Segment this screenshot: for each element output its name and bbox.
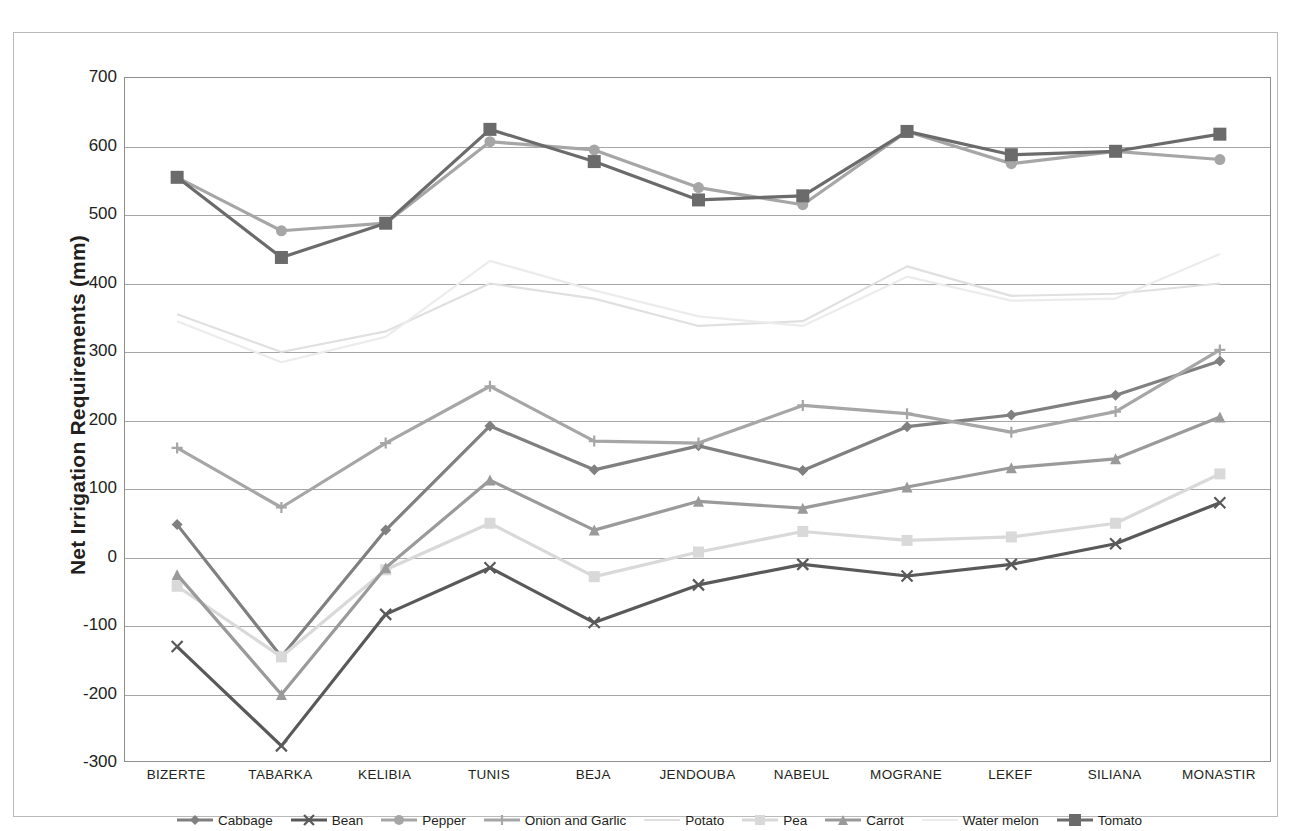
y-axis-tick-label: 700 bbox=[0, 67, 117, 87]
y-axis-tick-label: 200 bbox=[0, 410, 117, 430]
series-pepper bbox=[172, 126, 1226, 236]
y-axis-tick-label: 300 bbox=[0, 341, 117, 361]
data-point-marker bbox=[275, 251, 288, 264]
y-axis-tick-label: 0 bbox=[0, 547, 117, 567]
x-axis-tick-label: TUNIS bbox=[468, 767, 510, 782]
data-point-marker bbox=[589, 571, 600, 582]
x-axis-tick-label: JENDOUBA bbox=[660, 767, 736, 782]
data-point-marker bbox=[1006, 531, 1017, 542]
legend-swatch bbox=[484, 813, 520, 827]
data-point-marker bbox=[379, 217, 392, 230]
series-line bbox=[177, 350, 1220, 508]
legend-item-tomato[interactable]: Tomato bbox=[1057, 813, 1142, 828]
legend-swatch bbox=[742, 813, 778, 827]
data-point-marker bbox=[276, 225, 287, 236]
data-point-marker bbox=[1006, 410, 1017, 421]
legend-label: Potato bbox=[683, 813, 724, 828]
data-point-marker bbox=[172, 581, 183, 592]
series-onion-and-garlic bbox=[172, 344, 1226, 513]
data-point-marker bbox=[276, 651, 287, 662]
legend-item-bean[interactable]: Bean bbox=[291, 813, 364, 828]
legend-item-carrot[interactable]: Carrot bbox=[825, 813, 904, 828]
data-point-marker bbox=[902, 421, 913, 432]
legend-label: Pea bbox=[781, 813, 807, 828]
data-point-marker bbox=[693, 182, 704, 193]
series-line bbox=[177, 266, 1220, 352]
series-water-melon bbox=[177, 254, 1220, 362]
data-point-marker bbox=[902, 408, 913, 419]
data-point-marker bbox=[484, 136, 495, 147]
data-point-marker bbox=[902, 535, 913, 546]
data-point-marker bbox=[172, 569, 183, 580]
x-axis-tick-label: BEJA bbox=[576, 767, 611, 782]
legend-item-potato[interactable]: Potato bbox=[644, 813, 724, 828]
legend-swatch bbox=[825, 813, 861, 827]
y-axis-tick-label: 500 bbox=[0, 204, 117, 224]
legend-item-pepper[interactable]: Pepper bbox=[381, 813, 466, 828]
data-point-marker bbox=[483, 123, 496, 136]
x-axis-tick-label: MONASTIR bbox=[1182, 767, 1256, 782]
legend-item-onion-and-garlic[interactable]: Onion and Garlic bbox=[484, 813, 626, 828]
series-bean bbox=[172, 497, 1226, 751]
data-point-marker bbox=[589, 436, 600, 447]
data-point-marker bbox=[1214, 154, 1225, 165]
data-point-marker bbox=[796, 189, 809, 202]
legend-swatch bbox=[922, 813, 958, 827]
data-point-marker bbox=[797, 400, 808, 411]
data-point-marker bbox=[755, 815, 765, 825]
series-layer bbox=[125, 78, 1272, 763]
legend-label: Onion and Garlic bbox=[523, 813, 626, 828]
legend-label: Pepper bbox=[420, 813, 466, 828]
legend-swatch bbox=[381, 813, 417, 827]
legend-label: Tomato bbox=[1096, 813, 1142, 828]
data-point-marker bbox=[1069, 814, 1081, 826]
series-line bbox=[177, 131, 1220, 230]
legend-label: Water melon bbox=[961, 813, 1039, 828]
plot-area bbox=[124, 77, 1271, 762]
x-axis-tick-label: SILIANA bbox=[1088, 767, 1142, 782]
data-point-marker bbox=[1213, 128, 1226, 141]
data-point-marker bbox=[1109, 145, 1122, 158]
legend-label: Carrot bbox=[864, 813, 904, 828]
legend-swatch bbox=[644, 813, 680, 827]
data-point-marker bbox=[484, 518, 495, 529]
data-point-marker bbox=[797, 526, 808, 537]
data-point-marker bbox=[1110, 518, 1121, 529]
legend-swatch bbox=[177, 813, 213, 827]
x-axis-tick-label: KELIBIA bbox=[358, 767, 411, 782]
data-point-marker bbox=[484, 475, 495, 486]
y-axis-tick-label: -300 bbox=[0, 752, 117, 772]
data-point-marker bbox=[692, 193, 705, 206]
data-point-marker bbox=[901, 125, 914, 138]
data-point-marker bbox=[497, 815, 507, 825]
data-point-marker bbox=[1005, 148, 1018, 161]
legend-label: Cabbage bbox=[216, 813, 273, 828]
data-point-marker bbox=[589, 144, 600, 155]
data-point-marker bbox=[276, 740, 287, 751]
legend-item-cabbage[interactable]: Cabbage bbox=[177, 813, 273, 828]
data-point-marker bbox=[1006, 427, 1017, 438]
series-potato bbox=[177, 266, 1220, 352]
chart-figure: Net Irrigation Requirements (mm) 7006005… bbox=[0, 0, 1293, 831]
data-point-marker bbox=[171, 171, 184, 184]
legend-item-water-melon[interactable]: Water melon bbox=[922, 813, 1039, 828]
y-axis-tick-label: 100 bbox=[0, 478, 117, 498]
data-point-marker bbox=[1214, 355, 1225, 366]
legend-item-pea[interactable]: Pea bbox=[742, 813, 807, 828]
x-axis-tick-label: BIZERTE bbox=[147, 767, 206, 782]
y-axis-tick-label: -100 bbox=[0, 615, 117, 635]
legend-label: Bean bbox=[330, 813, 364, 828]
series-line bbox=[177, 503, 1220, 746]
y-axis-tick-label: 600 bbox=[0, 136, 117, 156]
series-tomato bbox=[171, 123, 1227, 264]
y-axis-tick-label: 400 bbox=[0, 273, 117, 293]
legend-swatch bbox=[1057, 813, 1093, 827]
series-line bbox=[177, 129, 1220, 257]
data-point-marker bbox=[394, 815, 404, 825]
x-axis-tick-label: LEKEF bbox=[988, 767, 1032, 782]
data-point-marker bbox=[172, 641, 183, 652]
data-point-marker bbox=[589, 464, 600, 475]
legend-swatch bbox=[291, 813, 327, 827]
chart-legend: CabbageBeanPepperOnion and GarlicPotatoP… bbox=[27, 805, 1292, 831]
data-point-marker bbox=[1110, 390, 1121, 401]
